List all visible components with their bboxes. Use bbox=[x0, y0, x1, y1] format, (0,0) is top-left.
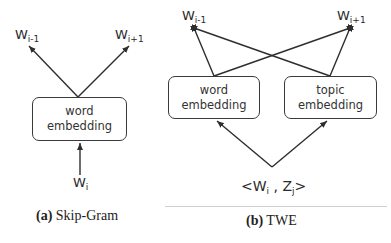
box-line1: word bbox=[200, 83, 228, 98]
box-line2: embedding bbox=[298, 98, 363, 113]
caption-b: (b) TWE bbox=[246, 213, 297, 229]
word-embedding-box-b: word embedding bbox=[168, 76, 260, 119]
arrow-to-wi-1 bbox=[29, 46, 78, 97]
divider-rule bbox=[165, 206, 387, 207]
label-w-i-a: Wi bbox=[73, 176, 88, 192]
label-input-pair-b: <Wi , Zj> bbox=[241, 179, 306, 196]
label-w-i-minus-1-a: Wi-1 bbox=[15, 28, 39, 44]
word-embedding-box-a: word embedding bbox=[32, 97, 127, 141]
arrow-to-wi+1 bbox=[78, 46, 129, 97]
box-line2: embedding bbox=[181, 98, 246, 113]
topic-embedding-box-b: topic embedding bbox=[284, 76, 377, 119]
box-line1: topic bbox=[316, 83, 344, 98]
label-w-i-minus-1-b: Wi-1 bbox=[182, 9, 206, 25]
box-line2: embedding bbox=[47, 119, 112, 134]
box-line1: word bbox=[65, 104, 93, 119]
label-w-i-plus-1-b: Wi+1 bbox=[337, 9, 366, 25]
label-w-i-plus-1-a: Wi+1 bbox=[115, 28, 144, 44]
caption-a: (a) Skip-Gram bbox=[36, 208, 118, 224]
